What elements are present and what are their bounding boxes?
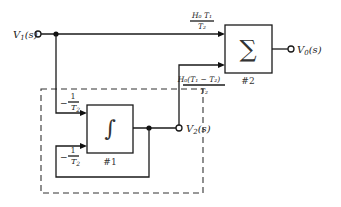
svg-text:T₂: T₂ — [198, 22, 206, 31]
integrator-tag: #1 — [103, 157, 116, 167]
svg-text:H₀(T₁ − T₂): H₀(T₁ − T₂) — [177, 75, 221, 84]
gain-feedback-to-integrator: − 1 T2 — [60, 146, 80, 167]
gain-input-to-integrator: − 1 T2 — [60, 92, 80, 113]
gain-v1-to-summer: H₀ T₁ T₂ — [190, 11, 214, 31]
svg-text:T₂: T₂ — [200, 87, 208, 96]
v0-output-terminal — [288, 46, 294, 52]
arrow-icon — [80, 110, 87, 116]
svg-text:−: − — [60, 152, 68, 162]
v0-label: V0(s) — [297, 44, 322, 57]
svg-text:T2: T2 — [71, 103, 80, 113]
svg-text:−: − — [60, 98, 68, 108]
v2-output-terminal — [176, 125, 182, 131]
svg-text:1: 1 — [70, 92, 75, 101]
block-diagram: ∫ #1 ∑ #2 V1(s) V0(s) V2(s) − 1 T2 − 1 T… — [0, 0, 341, 207]
arrow-icon — [218, 31, 225, 37]
arrow-icon — [218, 62, 225, 68]
integral-symbol: ∫ — [104, 116, 116, 141]
svg-text:H₀ T₁: H₀ T₁ — [191, 11, 212, 20]
summer-tag: #2 — [241, 76, 254, 86]
svg-text:1: 1 — [70, 146, 75, 155]
gain-v2-to-summer: H₀(T₁ − T₂) T₂ — [177, 75, 225, 96]
v2-label: V2(s) — [186, 123, 211, 136]
v1-label: V1(s) — [13, 29, 38, 42]
sigma-symbol: ∑ — [239, 35, 256, 63]
arrow-icon — [80, 143, 87, 149]
svg-text:T2: T2 — [71, 157, 80, 167]
